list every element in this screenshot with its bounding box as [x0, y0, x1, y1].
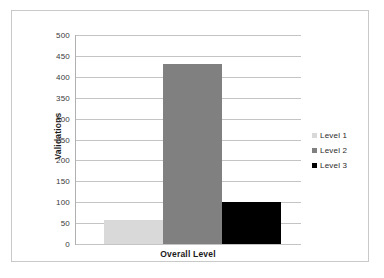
legend-label: Level 2 [320, 146, 347, 155]
legend-label: Level 1 [320, 131, 347, 140]
y-axis-tick-label: 300 [56, 114, 70, 123]
legend-swatch-icon [312, 163, 317, 168]
legend-swatch-icon [312, 133, 317, 138]
y-axis-tick-label: 0 [65, 240, 70, 249]
y-axis-tick-label: 200 [56, 156, 70, 165]
chart-figure-frame: Validations 5004504003503002502001501005… [11, 10, 369, 262]
bar-level-3 [222, 202, 281, 244]
legend-item[interactable]: Level 3 [312, 158, 347, 173]
y-axis-tick-label: 250 [56, 135, 70, 144]
legend-swatch-icon [312, 148, 317, 153]
y-axis-tick-label: 450 [56, 51, 70, 60]
legend-item[interactable]: Level 2 [312, 143, 347, 158]
bar-level-1 [104, 220, 163, 244]
x-axis-title: Overall Level [75, 249, 301, 259]
y-axis-tick-label: 350 [56, 93, 70, 102]
y-axis-tick-label: 500 [56, 31, 70, 40]
y-gridline [76, 56, 301, 57]
y-gridline [76, 244, 301, 245]
y-gridline [76, 35, 301, 36]
bar-level-2 [163, 64, 222, 244]
y-axis-tick-label: 150 [56, 177, 70, 186]
y-axis-tick-label: 400 [56, 72, 70, 81]
y-axis-tick-label: 100 [56, 198, 70, 207]
chart-legend: Level 1Level 2Level 3 [312, 128, 347, 173]
plot-area: 500450400350300250200150100500 [75, 35, 301, 245]
y-axis-tick-label: 50 [61, 219, 70, 228]
legend-item[interactable]: Level 1 [312, 128, 347, 143]
legend-label: Level 3 [320, 161, 347, 170]
